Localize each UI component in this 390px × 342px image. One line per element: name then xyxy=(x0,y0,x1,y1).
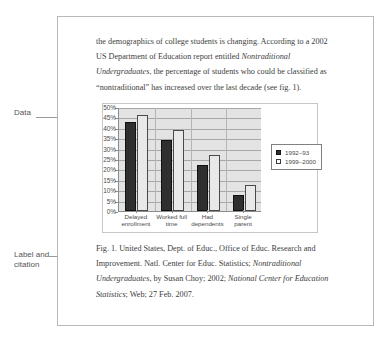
chart-bar xyxy=(161,140,172,211)
chart-bar xyxy=(137,115,148,211)
chart-y-tick-label: 20% xyxy=(103,167,116,173)
chart-bar xyxy=(197,165,208,211)
chart-legend-label: 1992–93 xyxy=(285,149,309,156)
chart-bar xyxy=(125,122,136,211)
chart-y-tick-label: 25% xyxy=(103,157,116,163)
chart-category-divider xyxy=(155,108,156,211)
chart-y-tick-label: 50% xyxy=(103,105,116,111)
chart-bar xyxy=(233,195,244,211)
chart-bar xyxy=(209,155,220,211)
chart-legend-swatch-icon xyxy=(276,150,281,155)
chart-x-axis-category-label: Single parent xyxy=(225,213,261,227)
chart-bar xyxy=(173,130,184,211)
chart-x-axis-category-label: Had dependents xyxy=(190,213,226,227)
chart-y-tick-label: 30% xyxy=(103,146,116,152)
paragraph-text-part-1: the demographics of college students is … xyxy=(96,37,328,61)
chart-category-divider xyxy=(191,108,192,211)
chart-y-tick-label: 35% xyxy=(103,136,116,142)
chart-y-tick-label: 10% xyxy=(103,188,116,194)
chart-legend: 1992–931999–2000 xyxy=(271,144,322,170)
chart-legend-item: 1999–2000 xyxy=(276,157,316,166)
figure-bar-chart: 50%45%40%35%30%25%20%15%10%5%0% Delayed … xyxy=(102,103,318,233)
chart-legend-label: 1999–2000 xyxy=(285,158,316,165)
chart-y-tick-label: 0% xyxy=(107,209,116,215)
chart-bar xyxy=(245,185,256,211)
chart-y-tick-label: 45% xyxy=(103,115,116,121)
chart-plot-area xyxy=(118,108,261,212)
chart-plot-region: 50%45%40%35%30%25%20%15%10%5%0% xyxy=(118,108,261,212)
chart-legend-item: 1992–93 xyxy=(276,148,316,157)
body-paragraph: the demographics of college students is … xyxy=(96,34,338,95)
caption-text-part-2: , by Susan Choy; 2002; xyxy=(149,274,228,283)
chart-x-axis-category-label: Delayed enrollment xyxy=(118,213,154,227)
chart-x-axis-labels: Delayed enrollmentWorked full timeHad de… xyxy=(118,213,261,235)
document-page: the demographics of college students is … xyxy=(57,16,374,326)
chart-y-tick-label: 15% xyxy=(103,178,116,184)
caption-text-part-3: ; Web; 27 Feb. 2007. xyxy=(126,290,194,299)
chart-x-axis-category-label: Worked full time xyxy=(154,213,190,227)
chart-y-tick-label: 40% xyxy=(103,126,116,132)
chart-category-divider xyxy=(226,108,227,211)
figure-caption: Fig. 1. United States, Dept. of Educ., O… xyxy=(96,241,346,302)
annotation-label-citation: Label and citation xyxy=(14,250,62,270)
chart-y-tick-label: 5% xyxy=(107,198,116,204)
chart-legend-swatch-icon xyxy=(276,159,281,164)
